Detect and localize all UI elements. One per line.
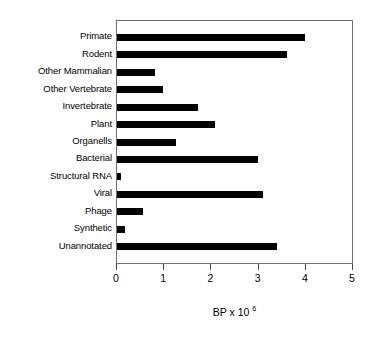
bar [117,173,121,180]
bar [117,208,143,215]
category-label: Structural RNA [0,171,112,181]
x-tick-label: 4 [293,272,317,284]
category-label: Other Mammalian [0,66,112,76]
bar [117,226,125,233]
bar [117,121,215,128]
category-label: Phage [0,206,112,216]
bar [117,139,176,146]
x-tick-mark [163,264,164,270]
bar [117,104,198,111]
x-tick-mark [305,264,306,270]
bar [117,34,305,41]
bars-layer [117,20,353,264]
x-tick-label: 1 [151,272,175,284]
bar [117,69,155,76]
bar [117,191,263,198]
category-label: Plant [0,119,112,129]
bar [117,156,258,163]
category-label: Synthetic [0,223,112,233]
category-label: Other Vertebrate [0,84,112,94]
category-label: Primate [0,31,112,41]
x-tick-mark [116,264,117,270]
x-axis-title-exponent: 6 [252,305,256,312]
x-tick-mark [258,264,259,270]
bar [117,86,163,93]
x-tick-label: 5 [340,272,364,284]
category-label: Invertebrate [0,101,112,111]
category-label: Bacterial [0,153,112,163]
x-tick-label: 0 [104,272,128,284]
category-label: Organells [0,136,112,146]
x-tick-label: 2 [198,272,222,284]
bar [117,51,287,58]
category-label: Viral [0,188,112,198]
x-tick-mark [210,264,211,270]
category-label: Rodent [0,49,112,59]
bar-chart: PrimateRodentOther MammalianOther Verteb… [0,0,375,338]
x-tick-mark [352,264,353,270]
x-axis-title-text: BP x 10 [213,306,250,318]
x-axis-title: BP x 106 [116,305,353,319]
x-axis: 012345 [116,264,353,294]
category-label: Unannotated [0,241,112,251]
bar [117,243,277,250]
x-tick-label: 3 [246,272,270,284]
category-axis: PrimateRodentOther MammalianOther Verteb… [0,20,112,264]
